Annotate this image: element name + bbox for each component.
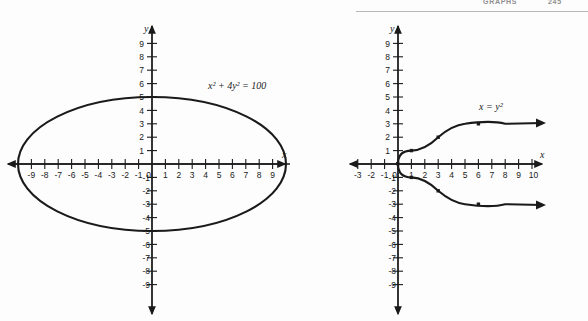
x-tick-label: 9 [270, 170, 275, 180]
running-head-title: GRAPHS [483, 0, 517, 7]
equation-label: x² + 4y² = 100 [207, 80, 266, 91]
x-tick-label: 7 [489, 170, 494, 180]
parabola-svg: -3 -2 -1 0 1 2 3 4 5 6 7 8 9 10 9 8 7 6 [294, 12, 588, 321]
x-tick-label: 6 [230, 170, 235, 180]
y-tick-label: 4 [139, 106, 144, 116]
y-tick-label: -3 [142, 199, 150, 209]
x-tick-label: 8 [503, 170, 508, 180]
x-tick-label: -3 [108, 170, 116, 180]
y-axis-label: y [389, 23, 395, 34]
y-tick-label: 5 [385, 92, 390, 102]
y-tick-label: -8 [142, 266, 150, 276]
x-tick-label: -8 [41, 170, 49, 180]
x-tick-label: 1 [163, 170, 168, 180]
data-point [477, 203, 480, 206]
y-tick-label: 9 [385, 39, 390, 49]
y-tick-label: 6 [139, 79, 144, 89]
data-point [437, 136, 440, 139]
y-tick-label: 4 [385, 106, 390, 116]
x-axis-tick-labels: -3 -2 -1 0 1 2 3 4 5 6 7 8 9 10 [354, 170, 538, 180]
data-point [396, 162, 399, 165]
x-tick-label: 10 [529, 170, 539, 180]
y-tick-label: -9 [142, 280, 150, 290]
y-axis-label: y [143, 23, 149, 34]
x-tick-label: 3 [436, 170, 441, 180]
parabola-upper-branch [398, 122, 542, 164]
y-tick-label: -7 [142, 253, 150, 263]
x-tick-label: 2 [176, 170, 181, 180]
running-head: GRAPHS 245 [0, 0, 588, 12]
x-tick-label: -3 [354, 170, 362, 180]
equation-label: x = y² [478, 101, 504, 112]
x-tick-label: 7 [243, 170, 248, 180]
y-tick-label: -1 [142, 173, 150, 183]
y-tick-label: 2 [139, 132, 144, 142]
chart-ellipse: -9 -8 -7 -6 -5 -4 -3 -2 -1 0 1 2 3 4 5 6… [0, 12, 294, 321]
x-tick-label: 8 [257, 170, 262, 180]
x-tick-label: -5 [81, 170, 89, 180]
x-tick-label: -7 [54, 170, 62, 180]
y-tick-label: 9 [139, 39, 144, 49]
y-tick-label: -4 [142, 213, 150, 223]
y-tick-label: -3 [388, 199, 396, 209]
y-tick-label: 7 [139, 65, 144, 75]
x-tick-label: -6 [68, 170, 76, 180]
data-point [437, 189, 440, 192]
y-tick-label: 1 [139, 146, 144, 156]
chart-parabola: -3 -2 -1 0 1 2 3 4 5 6 7 8 9 10 9 8 7 6 [294, 12, 588, 321]
y-tick-label: -6 [388, 240, 396, 250]
x-tick-label: 6 [476, 170, 481, 180]
x-tick-label: 4 [449, 170, 454, 180]
x-tick-label: 5 [217, 170, 222, 180]
y-tick-label: 8 [385, 52, 390, 62]
x-axis-label: x [539, 149, 545, 160]
x-tick-label: 9 [516, 170, 521, 180]
y-tick-label: 2 [385, 132, 390, 142]
x-tick-label: 4 [203, 170, 208, 180]
axes [350, 26, 542, 314]
ellipse-svg: -9 -8 -7 -6 -5 -4 -3 -2 -1 0 1 2 3 4 5 6… [0, 12, 294, 321]
y-tick-label: 7 [385, 65, 390, 75]
y-tick-label: -9 [388, 280, 396, 290]
running-head-page-number: 245 [548, 0, 562, 7]
x-tick-label: -9 [28, 170, 36, 180]
x-axis-label: x [281, 149, 287, 160]
y-tick-label: -5 [388, 226, 396, 236]
textbook-figure-page: GRAPHS 245 [0, 0, 588, 321]
y-tick-label: 3 [385, 119, 390, 129]
y-tick-label: -2 [388, 186, 396, 196]
parabola-upper-arrow [536, 119, 546, 128]
y-tick-label: -8 [388, 266, 396, 276]
x-tick-label: -2 [121, 170, 129, 180]
data-point [410, 176, 413, 179]
y-tick-label: -7 [388, 253, 396, 263]
y-tick-label: 8 [139, 52, 144, 62]
data-point [477, 122, 480, 125]
parabola-lower-arrow [536, 201, 546, 210]
y-tick-label: -1 [388, 173, 396, 183]
data-point [410, 149, 413, 152]
y-tick-label: 6 [385, 79, 390, 89]
x-tick-label: -4 [95, 170, 103, 180]
x-tick-label: -2 [367, 170, 375, 180]
x-tick-label: 3 [190, 170, 195, 180]
y-tick-label: -6 [142, 240, 150, 250]
x-tick-label: 2 [422, 170, 427, 180]
y-tick-label: 1 [385, 146, 390, 156]
x-tick-label: 5 [463, 170, 468, 180]
y-tick-label: -2 [142, 186, 150, 196]
y-tick-label: -4 [388, 213, 396, 223]
y-tick-label: 3 [139, 119, 144, 129]
